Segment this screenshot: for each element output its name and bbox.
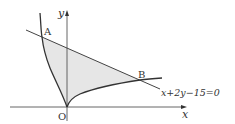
graph-diagram: y x O A B x+2y−15=0 bbox=[0, 0, 235, 124]
origin-label: O bbox=[58, 111, 66, 122]
point-b-label: B bbox=[138, 69, 145, 80]
y-axis-label: y bbox=[57, 7, 65, 20]
line-equation-label: x+2y−15=0 bbox=[161, 87, 220, 98]
point-a-label: A bbox=[43, 26, 52, 37]
shaded-region bbox=[42, 37, 140, 107]
y-axis-arrow-icon bbox=[65, 10, 69, 16]
x-axis-label: x bbox=[182, 108, 189, 121]
